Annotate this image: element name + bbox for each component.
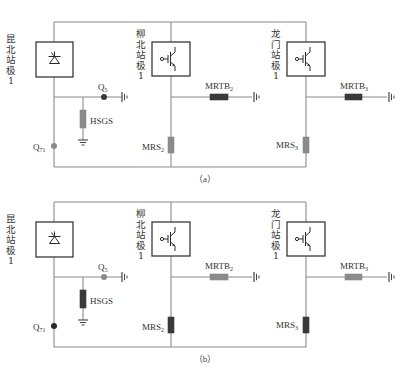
svg-text:极: 极 (6, 245, 16, 256)
svg-text:站: 站 (6, 54, 16, 65)
svg-text:极: 极 (6, 65, 16, 76)
resistor-mrs2 (168, 317, 174, 333)
ground-icon (122, 92, 127, 102)
label-mrtb3: MRTB3 (340, 261, 368, 272)
circuit-diagram: 昆北站极1柳北站极1龙门站极1Q5HSGSQ71MRTB2MRTB3MRS2MR… (0, 0, 411, 381)
switch-q71 (51, 323, 57, 329)
svg-text:站: 站 (271, 229, 281, 240)
svg-text:北: 北 (136, 39, 146, 50)
ground-icon (122, 272, 127, 282)
switch-q71 (51, 143, 57, 149)
circuit-panel-a: 昆北站极1柳北站极1龙门站极1Q5HSGSQ71MRTB2MRTB3MRS2MR… (6, 22, 394, 184)
station-label-longmen: 龙门站极1 (271, 208, 281, 261)
resistor-mrtb2 (210, 94, 228, 100)
svg-text:昆: 昆 (6, 33, 16, 44)
svg-text:1: 1 (8, 255, 14, 266)
igbt-valve-icon (152, 222, 190, 256)
label-mrs3: MRS3 (276, 320, 298, 331)
svg-text:极: 极 (271, 60, 281, 71)
svg-text:柳: 柳 (136, 208, 146, 219)
igbt-valve-icon (287, 222, 325, 256)
igbt-valve-icon (152, 42, 190, 76)
label-mrtb2: MRTB2 (205, 81, 233, 92)
station-label-liubei: 柳北站极1 (136, 28, 146, 81)
ground-icon (254, 272, 259, 282)
ground-icon (78, 140, 88, 145)
label-q5: Q5 (98, 82, 108, 93)
station-label-longmen: 龙门站极1 (271, 28, 281, 81)
label-mrtb2: MRTB2 (205, 261, 233, 272)
label-hsgs: HSGS (90, 296, 113, 306)
ground-icon (78, 320, 88, 325)
svg-text:极: 极 (271, 240, 281, 251)
svg-text:门: 门 (271, 219, 281, 230)
resistor-mrs3 (303, 317, 309, 333)
svg-text:1: 1 (138, 250, 144, 261)
svg-text:站: 站 (6, 234, 16, 245)
svg-text:1: 1 (138, 70, 144, 81)
label-hsgs: HSGS (90, 116, 113, 126)
svg-text:北: 北 (6, 44, 16, 55)
svg-text:龙: 龙 (271, 28, 281, 39)
resistor-mrtb3 (345, 274, 362, 280)
resistor-mrtb2 (210, 274, 228, 280)
svg-text:北: 北 (136, 219, 146, 230)
ground-icon (389, 272, 394, 282)
svg-text:门: 门 (271, 39, 281, 50)
switch-q5 (101, 94, 107, 100)
resistor-mrtb3 (345, 94, 362, 100)
panel-caption: （a） (194, 174, 216, 184)
svg-text:极: 极 (136, 60, 146, 71)
thyristor-valve-icon (36, 222, 73, 257)
station-label-liubei: 柳北站极1 (136, 208, 146, 261)
svg-text:1: 1 (8, 75, 14, 86)
resistor-hsgs (80, 110, 86, 128)
thyristor-valve-icon (36, 42, 73, 77)
svg-text:龙: 龙 (271, 208, 281, 219)
label-mrs2: MRS2 (142, 322, 164, 333)
svg-text:站: 站 (136, 49, 146, 60)
resistor-hsgs (80, 290, 86, 308)
svg-text:站: 站 (136, 229, 146, 240)
svg-text:站: 站 (271, 49, 281, 60)
ground-icon (254, 92, 259, 102)
resistor-mrs3 (303, 137, 309, 153)
label-mrtb3: MRTB3 (340, 81, 368, 92)
resistor-mrs2 (168, 137, 174, 153)
svg-text:柳: 柳 (136, 28, 146, 39)
switch-q5 (101, 274, 107, 280)
label-q71: Q71 (33, 142, 46, 153)
label-mrs2: MRS2 (142, 142, 164, 153)
igbt-valve-icon (287, 42, 325, 76)
svg-text:北: 北 (6, 224, 16, 235)
svg-text:1: 1 (273, 70, 279, 81)
station-label-kunbei: 昆北站极1 (6, 33, 16, 86)
ground-icon (389, 92, 394, 102)
station-label-kunbei: 昆北站极1 (6, 213, 16, 266)
label-q5: Q5 (98, 262, 108, 273)
svg-text:极: 极 (136, 240, 146, 251)
svg-text:1: 1 (273, 250, 279, 261)
label-q71: Q71 (33, 322, 46, 333)
svg-text:昆: 昆 (6, 213, 16, 224)
circuit-panel-b: 昆北站极1柳北站极1龙门站极1Q5HSGSQ71MRTB2MRTB3MRS2MR… (6, 202, 394, 364)
panel-caption: （b） (194, 354, 217, 364)
label-mrs3: MRS3 (276, 140, 298, 151)
